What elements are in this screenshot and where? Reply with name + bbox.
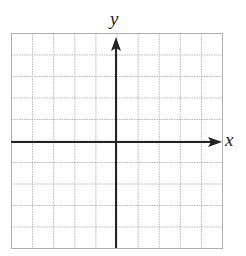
y-axis-label: y [110, 9, 118, 28]
coordinate-grid [0, 0, 246, 256]
x-axis-label: x [225, 130, 233, 149]
